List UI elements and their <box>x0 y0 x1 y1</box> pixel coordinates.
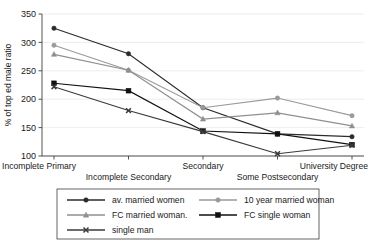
legend-item-3[interactable]: FC single woman <box>199 210 311 220</box>
data-point-marker <box>51 52 56 57</box>
legend-label: FC single woman <box>244 210 311 220</box>
legend-item-0[interactable]: av. married women <box>67 195 185 205</box>
legend-label: 10 year married woman <box>244 195 334 205</box>
series-3 <box>52 81 355 147</box>
data-point-marker <box>201 106 205 110</box>
y-tick-label: 300 <box>21 38 36 48</box>
line-chart: 100150200250300350% of top ed male ratio… <box>0 0 371 246</box>
legend-label: FC married woman. <box>112 210 187 220</box>
y-tick-label: 150 <box>21 123 36 133</box>
series-line <box>54 45 352 115</box>
legend-item-4[interactable]: single man <box>67 225 154 235</box>
x-tick-label: Incomplete Primary <box>2 161 77 171</box>
legend-label: av. married women <box>112 195 185 205</box>
legend-marker-icon <box>84 198 89 203</box>
x-tick-label: Incomplete Secondary <box>86 172 172 182</box>
x-tick-label: Secondary <box>182 161 224 171</box>
data-point-marker <box>350 134 354 138</box>
legend-label: single man <box>112 225 154 235</box>
legend-marker-icon <box>216 198 221 203</box>
data-point-marker <box>126 52 130 56</box>
series-0 <box>52 26 354 139</box>
data-point-marker <box>52 43 56 47</box>
y-tick-label: 200 <box>21 94 36 104</box>
series-2 <box>51 52 354 128</box>
data-point-marker <box>275 131 280 136</box>
y-tick-label: 100 <box>21 151 36 161</box>
y-tick-label: 350 <box>21 9 36 19</box>
data-point-marker <box>275 96 279 100</box>
series-1 <box>52 43 354 118</box>
data-point-marker <box>350 113 354 117</box>
series-line <box>54 54 352 126</box>
x-tick-label: University Degree <box>300 161 369 171</box>
legend-marker-icon <box>216 213 221 218</box>
y-tick-label: 250 <box>21 66 36 76</box>
legend-item-2[interactable]: FC married woman. <box>67 210 187 220</box>
x-tick-label: Some Postsecondary <box>237 172 319 182</box>
legend-item-1[interactable]: 10 year married woman <box>199 195 334 205</box>
data-point-marker <box>126 88 131 93</box>
data-point-marker <box>52 26 56 30</box>
y-axis-title: % of top ed male ratio <box>3 43 13 126</box>
chart-figure: 100150200250300350% of top ed male ratio… <box>0 0 371 246</box>
